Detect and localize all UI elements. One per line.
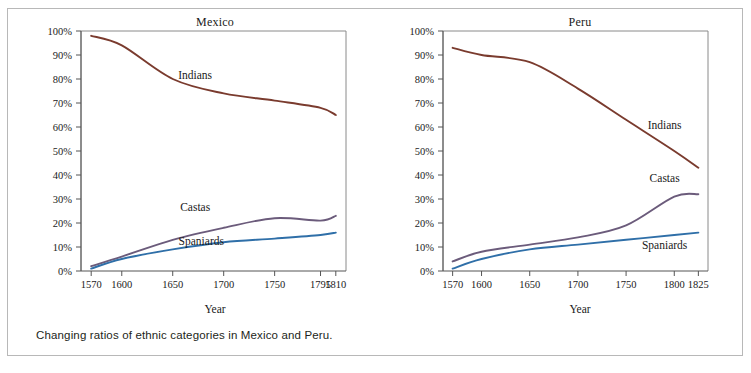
y-tick-label: 100%	[410, 26, 435, 37]
x-tick-label: 1825	[688, 279, 709, 290]
x-tick-label: 1600	[111, 279, 132, 290]
y-tick-label: 50%	[53, 146, 73, 157]
series-label-spaniards: Spaniards	[642, 239, 688, 252]
x-tick-label: 1650	[519, 279, 540, 290]
x-tick-label: 1700	[213, 279, 234, 290]
series-label-indians: Indians	[648, 119, 682, 131]
y-tick-label: 40%	[53, 170, 73, 181]
y-tick-label: 20%	[53, 218, 73, 229]
chart-panels: Mexico 0%10%20%30%40%50%60%70%80%90%100%…	[8, 9, 744, 319]
y-tick-label: 0%	[420, 266, 434, 277]
y-tick-label: 40%	[415, 170, 435, 181]
x-axis-label-mexico: Year	[12, 303, 372, 315]
y-tick-label: 20%	[415, 218, 435, 229]
series-label-indians: Indians	[178, 69, 212, 81]
scan-top-remnant	[6, 0, 216, 7]
x-tick-label: 1700	[567, 279, 588, 290]
figure-frame: Mexico 0%10%20%30%40%50%60%70%80%90%100%…	[7, 8, 743, 356]
y-tick-label: 100%	[48, 26, 73, 37]
figure-caption: Changing ratios of ethnic categories in …	[36, 329, 333, 341]
plot-area-peru: 0%10%20%30%40%50%60%70%80%90%100%1570160…	[380, 9, 740, 299]
y-tick-label: 10%	[53, 242, 73, 253]
x-axis-label-peru: Year	[380, 303, 740, 315]
x-tick-label: 1650	[162, 279, 183, 290]
chart-panel-mexico: Mexico 0%10%20%30%40%50%60%70%80%90%100%…	[12, 9, 372, 319]
x-tick-label: 1750	[616, 279, 637, 290]
x-tick-label: 1570	[81, 279, 102, 290]
series-label-castas: Castas	[650, 172, 681, 184]
series-label-castas: Castas	[180, 201, 211, 213]
x-tick-label: 1600	[471, 279, 492, 290]
series-label-spaniards: Spaniards	[179, 235, 225, 248]
series-line-indians	[453, 48, 699, 168]
y-tick-label: 60%	[415, 122, 435, 133]
y-tick-label: 90%	[415, 50, 435, 61]
y-tick-label: 10%	[415, 242, 435, 253]
chart-panel-peru: Peru 0%10%20%30%40%50%60%70%80%90%100%15…	[380, 9, 740, 319]
y-tick-label: 90%	[53, 50, 73, 61]
x-tick-label: 1750	[264, 279, 285, 290]
y-tick-label: 60%	[53, 122, 73, 133]
y-tick-label: 70%	[415, 98, 435, 109]
x-tick-label: 1570	[442, 279, 463, 290]
y-tick-label: 0%	[58, 266, 72, 277]
y-tick-label: 50%	[415, 146, 435, 157]
y-tick-label: 30%	[415, 194, 435, 205]
y-tick-label: 70%	[53, 98, 73, 109]
y-tick-label: 30%	[53, 194, 73, 205]
x-tick-label: 1810	[325, 279, 346, 290]
y-tick-label: 80%	[53, 74, 73, 85]
x-tick-label: 1800	[664, 279, 685, 290]
plot-area-mexico: 0%10%20%30%40%50%60%70%80%90%100%1570160…	[12, 9, 372, 299]
y-tick-label: 80%	[415, 74, 435, 85]
series-line-indians	[91, 36, 336, 115]
